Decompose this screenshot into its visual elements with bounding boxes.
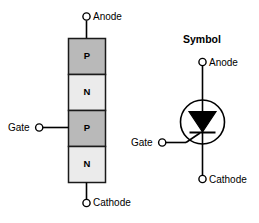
symbol-gate-terminal-icon: [159, 139, 166, 146]
structure-anode-terminal-icon: [83, 13, 90, 20]
symbol-heading: Symbol: [183, 34, 221, 45]
structure-gate-label: Gate: [8, 122, 30, 133]
symbol-anode-label: Anode: [209, 57, 238, 68]
scr-diagram-figure: Anode Cathode Gate P N P N Symbol Anode …: [0, 0, 259, 223]
structure-layer-n2-label: N: [69, 159, 106, 169]
structure-layer-n1-label: N: [69, 87, 106, 97]
structure-cathode-label: Cathode: [93, 197, 131, 208]
symbol-cathode-label: Cathode: [209, 174, 247, 185]
symbol-triangle-icon: [189, 112, 216, 133]
structure-anode-label: Anode: [93, 11, 122, 22]
symbol-cathode-terminal-icon: [199, 175, 206, 182]
structure-gate-terminal-icon: [36, 124, 43, 131]
symbol-gate-label: Gate: [131, 137, 153, 148]
structure-cathode-terminal-icon: [83, 199, 90, 206]
symbol-anode-terminal-icon: [199, 58, 206, 65]
structure-layer-p2-label: P: [69, 123, 106, 133]
structure-layer-p1-label: P: [69, 51, 106, 61]
